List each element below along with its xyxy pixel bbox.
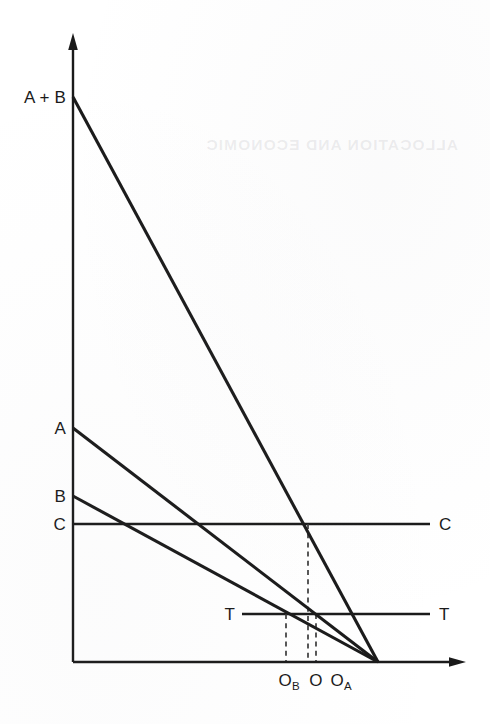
- y-axis-label-a-plus-b: A + B: [24, 89, 66, 106]
- y-axis-label-a: A: [54, 420, 66, 437]
- y-axis-arrowhead: [68, 33, 78, 50]
- x-axis-label-o: O: [309, 672, 322, 689]
- curves-group: [73, 97, 378, 662]
- y-axis-label-b: B: [54, 488, 66, 505]
- x-axis-label-oa: OA: [330, 672, 351, 693]
- x-axis-label-oa-base: O: [330, 671, 343, 690]
- x-axis-label-ob-subscript: B: [292, 680, 300, 692]
- y-axis-label-c: C: [54, 516, 66, 533]
- x-axis-label-ob: OB: [278, 672, 299, 693]
- x-axis-arrowhead: [449, 657, 466, 667]
- left-label-t: T: [224, 606, 235, 623]
- figure-root: ALLOCATION AND ECONOMIC A + B A: [0, 0, 490, 724]
- level-lines-group: [73, 524, 430, 614]
- right-label-t: T: [439, 606, 450, 623]
- x-axis-label-oa-subscript: A: [344, 680, 352, 692]
- right-label-c: C: [439, 516, 451, 533]
- x-axis-label-o-base: O: [309, 671, 322, 690]
- axes-group: [68, 33, 466, 667]
- supply-curve-diagram: [0, 0, 490, 724]
- dashed-guides-group: [286, 524, 316, 661]
- x-axis-label-ob-base: O: [278, 671, 291, 690]
- curve-a: [73, 428, 378, 662]
